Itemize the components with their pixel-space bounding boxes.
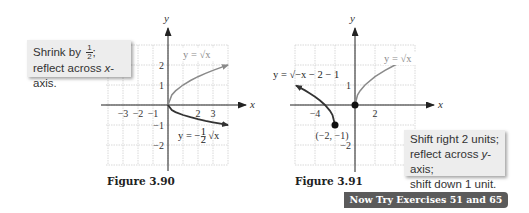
transformed-curve-label: y = √−x − 2 − 1 xyxy=(273,69,339,80)
points: (−2, −1) xyxy=(316,102,359,143)
y-axis-label: y xyxy=(349,12,355,24)
figure-caption-3-90: Figure 3.90 xyxy=(107,175,175,187)
x-tick-label: −3 xyxy=(118,108,129,119)
callout-line-1: Shrink by 12; xyxy=(33,44,125,61)
x-axis-label: x xyxy=(249,98,255,110)
y-tick-label: −2 xyxy=(153,140,164,151)
curve-labels: y = √xy = −12√x xyxy=(178,48,220,145)
callout-shrink-reflect: Shrink by 12; reflect across x-axis. xyxy=(27,40,131,77)
x-tick-label: 3 xyxy=(211,108,216,119)
x-tick-label: 2 xyxy=(196,108,201,119)
callout-line-3: shift down 1 unit. xyxy=(410,177,499,192)
callout-line-2: reflect across y-axis; xyxy=(410,147,499,177)
x-axis-label: x xyxy=(437,98,443,110)
x-tick-label: −1 xyxy=(148,108,159,119)
x-tick-label: −4 xyxy=(310,108,321,119)
y-axis-label: y xyxy=(163,12,169,24)
callout-line-2: reflect across x-axis. xyxy=(33,61,125,91)
data-point xyxy=(332,122,339,129)
figure-caption-3-91: Figure 3.91 xyxy=(295,175,363,187)
x-tick-label: 2 xyxy=(373,108,378,119)
figure-3-90-graph: xy −3−2−12321−1−2 y = √xy = −12√x xyxy=(101,12,255,171)
fraction-denominator: 2 xyxy=(201,134,206,145)
y-tick-label: −2 xyxy=(340,140,351,151)
y-tick-label: 1 xyxy=(346,80,351,91)
y-tick-label: 1 xyxy=(159,80,164,91)
callout-line-1: Shift right 2 units; xyxy=(410,132,499,147)
parent-curve-label: y = √x xyxy=(183,49,211,60)
axes: xy xyxy=(101,12,255,171)
now-try-exercises-banner[interactable]: Now Try Exercises 51 and 65 xyxy=(344,192,508,208)
transformed-curve-label: y = − xyxy=(178,130,200,141)
data-point-label: (−2, −1) xyxy=(316,130,349,142)
callout-shift-reflect-shift: Shift right 2 units; reflect across y-ax… xyxy=(404,130,505,176)
y-tick-label: −1 xyxy=(153,120,164,131)
sqrt-x-text: √x xyxy=(208,130,220,141)
x-tick-label: −2 xyxy=(133,108,144,119)
y-tick-label: 2 xyxy=(159,60,164,71)
parent-curve-label: y = √x xyxy=(384,53,412,64)
data-point xyxy=(352,102,359,109)
